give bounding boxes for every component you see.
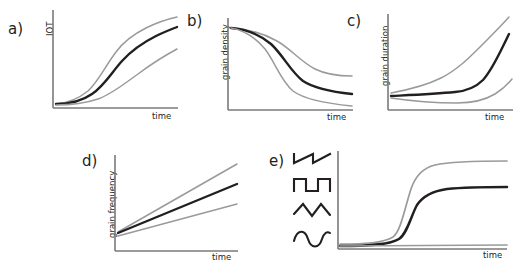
panel-c-curve-upper: [391, 17, 509, 93]
panel-d-plot-area: [112, 155, 240, 259]
panel-b-svg: [225, 18, 355, 118]
square-wave-icon: [294, 179, 330, 191]
panel-e-curve-upper: [340, 161, 507, 244]
panel-d-svg: [112, 155, 240, 259]
panel-c-svg: [385, 14, 515, 118]
panel-a-curve-lower: [56, 49, 177, 105]
panel-c: c) grain duration time: [345, 0, 520, 135]
sawtooth-wave-icon: [294, 154, 330, 163]
panel-c-curve-lower: [391, 79, 512, 103]
panel-e-waveform-icon-column: [289, 151, 335, 255]
panel-d: d) grain frequency time: [60, 143, 260, 275]
panel-a-svg: [50, 10, 180, 115]
panel-b-curve-lower: [231, 28, 352, 106]
panel-e-curve-lower: [340, 245, 507, 246]
panel-e: e): [255, 143, 520, 275]
panel-e-curve-mean: [340, 187, 507, 246]
panel-c-label: c): [347, 14, 361, 29]
panel-a-curve-upper: [56, 17, 177, 104]
panel-a-plot-area: [50, 10, 180, 115]
panel-c-plot-area: [385, 14, 515, 118]
panel-e-x-axis-label: time: [483, 251, 502, 260]
panel-a: a) IOT time: [0, 0, 190, 135]
panel-c-x-axis-label: time: [485, 113, 504, 122]
panel-c-curve-mean: [391, 34, 509, 96]
panel-e-waveform-icons-svg: [289, 151, 335, 255]
panel-e-label: e): [269, 154, 284, 169]
triangle-wave-icon: [294, 204, 330, 216]
panel-a-curve-mean: [56, 27, 177, 104]
panel-b-curve-mean: [231, 28, 352, 94]
panel-b-plot-area: [225, 18, 355, 118]
multi-panel-line-figure: a) IOT time b) grain density: [0, 0, 520, 275]
panel-e-plot-area: [335, 151, 510, 257]
panel-b: b) grain density time: [185, 0, 360, 135]
panel-a-label: a): [8, 22, 23, 37]
panel-d-label: d): [82, 154, 97, 169]
panel-d-line-upper: [118, 164, 237, 232]
sine-wave-icon: [294, 232, 330, 247]
panel-b-x-axis-label: time: [327, 113, 346, 122]
panel-a-x-axis-label: time: [152, 112, 171, 121]
panel-b-label: b): [187, 14, 202, 29]
panel-e-svg: [335, 151, 510, 257]
panel-d-x-axis-label: time: [212, 253, 231, 262]
